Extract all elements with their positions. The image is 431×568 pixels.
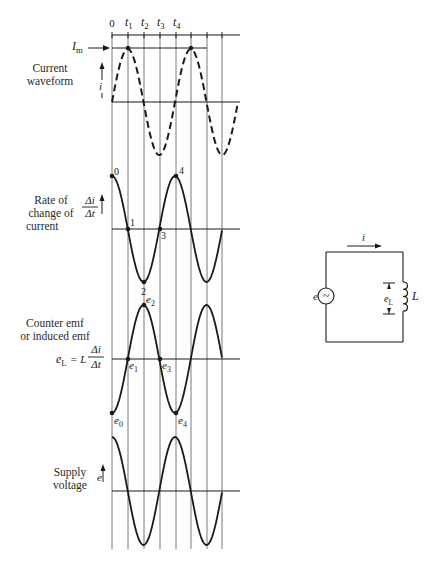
el-top-arrow-head: [387, 284, 391, 289]
supply-axis-arrow-head: [101, 464, 106, 471]
current-peak-dot-1: [189, 46, 193, 50]
counter-emf-title-line1: Counter emf: [10, 317, 100, 330]
counter-emf-title-line2: or induced emf: [10, 330, 100, 343]
time-label-t4: t4: [173, 15, 181, 31]
current-panel-title: Current waveform: [14, 62, 86, 88]
inductor-label: L: [411, 289, 419, 303]
supply-title-line1: Supply: [44, 466, 96, 479]
rate-title-line2: change of: [16, 207, 86, 220]
waveform-curves: [112, 49, 238, 545]
rate-point-label-1: 1: [130, 217, 135, 228]
formula-equals-L: = L: [70, 353, 86, 365]
rate-point-label-4: 4: [179, 165, 184, 176]
supply-axis-symbol: e: [97, 471, 102, 483]
rate-title-line1: Rate of: [16, 194, 86, 207]
panel-axes: [82, 45, 240, 491]
rate-title-line3: current: [16, 220, 86, 233]
waveform-points: [110, 46, 194, 416]
counter-emf-panel-title: Counter emf or induced emf: [10, 317, 100, 343]
current-arrow-head: [375, 244, 382, 249]
current-title-line2: waveform: [14, 75, 86, 88]
i-axis-symbol: i: [99, 80, 102, 92]
inductor-voltage-label: eL: [384, 293, 393, 307]
im-arrow-head: [103, 45, 110, 51]
supply-panel-title: Supply voltage: [44, 466, 96, 492]
formula-lhs: eL: [56, 352, 67, 368]
time-label-t1: t1: [125, 15, 133, 31]
circuit-current-label: i: [362, 231, 365, 243]
emf-point-label-e2: e2: [146, 293, 155, 308]
time-label-t2: t2: [141, 15, 149, 31]
time-label-0: 0: [109, 17, 115, 29]
rate-point-label-0: 0: [114, 166, 119, 177]
im-label: Im: [71, 39, 83, 55]
emf-point-label-e0: e0: [114, 414, 123, 429]
current-title-line1: Current: [14, 62, 86, 75]
source-voltage-label: e: [313, 290, 318, 302]
emf-point-label-e4: e4: [178, 414, 187, 429]
circuit-schematic: ~eiLeL: [313, 231, 419, 342]
formula-denominator: Δt: [90, 358, 101, 370]
inductor-coil-icon: [403, 282, 408, 311]
time-label-t3: t3: [157, 15, 165, 31]
el-bottom-arrow-head: [387, 308, 391, 313]
i-axis-arrow-head: [100, 62, 105, 69]
current-peak-dot-0: [126, 46, 130, 50]
rate-point-4: [174, 174, 179, 179]
rate-point-2: [142, 280, 147, 285]
emf-point-label-e1: e1: [129, 359, 138, 374]
supply-title-line2: voltage: [44, 479, 96, 492]
rate-axis-arrow-head: [100, 194, 105, 201]
rate-point-label-3: 3: [161, 230, 166, 241]
ac-source-tilde-icon: ~: [323, 289, 330, 303]
emf-point-label-e3: e3: [162, 359, 171, 374]
rate-panel-title: Rate of change of current: [16, 194, 86, 233]
time-gridlines: [112, 32, 240, 549]
formula-numerator: Δi: [90, 343, 101, 355]
